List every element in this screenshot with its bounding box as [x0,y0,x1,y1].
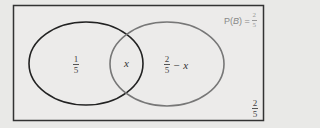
universe-outside-value: 2 5 [252,99,258,118]
set-b-only-value: 2 5 − x [164,55,188,74]
pb-fraction: 2 5 [252,12,257,29]
probability-b-label: P(B) = 2 5 [224,12,257,29]
a-only-num: 1 [74,55,79,63]
b-only-suffix: − x [173,59,188,71]
pb-suffix: ) = [239,16,250,26]
intersection-value: x [124,57,129,69]
outside-num: 2 [253,99,258,107]
pb-num: 2 [253,12,257,19]
set-a-only-value: 1 5 [73,55,79,74]
a-only-den: 5 [74,66,79,74]
outside-den: 5 [253,110,258,118]
pb-prefix: P( [224,16,233,26]
b-only-fraction: 2 5 [164,55,170,74]
b-only-num: 2 [165,55,170,63]
b-only-den: 5 [165,66,170,74]
pb-den: 5 [253,22,257,29]
